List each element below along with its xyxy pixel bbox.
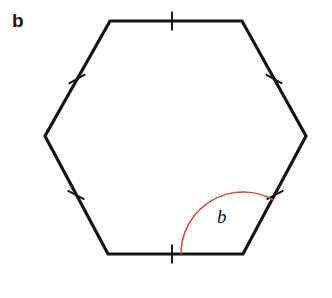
part-label: b [12,10,24,32]
geometry-figure: b b [0,0,332,298]
angle-label: b [217,206,227,228]
hexagon-diagram-svg [0,0,332,298]
